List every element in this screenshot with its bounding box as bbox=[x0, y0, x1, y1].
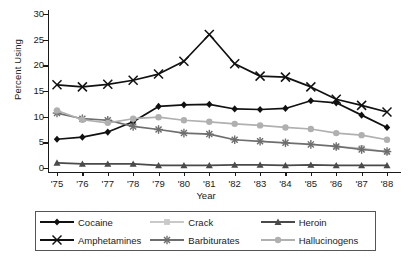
data-point-circle bbox=[274, 237, 280, 243]
data-point-circle bbox=[105, 120, 111, 126]
y-tick-mark bbox=[43, 91, 49, 92]
plot-area: Percent Using 051015202530 '75'76'77'78'… bbox=[0, 0, 412, 196]
y-tick-label: 25 bbox=[22, 35, 44, 45]
legend-swatch-circle-icon bbox=[261, 234, 295, 246]
data-point-circle bbox=[130, 116, 136, 122]
legend-item-amphetamines[interactable]: Amphetamines bbox=[40, 234, 150, 246]
data-point-diamond bbox=[54, 218, 60, 225]
x-tick-mark bbox=[260, 172, 261, 176]
y-tick-label: 15 bbox=[22, 86, 44, 96]
data-point-circle bbox=[206, 119, 212, 125]
data-point-diamond bbox=[206, 101, 212, 108]
data-point-asterisk bbox=[129, 122, 138, 131]
data-point-circle bbox=[282, 124, 288, 130]
x-tick-mark bbox=[285, 172, 286, 176]
legend-swatch-diamond-icon bbox=[40, 216, 74, 228]
chart-legend: CocaineCrackHeroinAmphetaminesBarbiturat… bbox=[35, 211, 376, 251]
y-tick-mark bbox=[43, 40, 49, 41]
x-tick-mark bbox=[209, 172, 210, 176]
y-tick-mark bbox=[43, 65, 49, 66]
x-tick-mark bbox=[235, 172, 236, 176]
legend-label: Hallucinogens bbox=[299, 235, 359, 246]
legend-label: Barbiturates bbox=[188, 235, 239, 246]
x-tick-mark bbox=[133, 172, 134, 176]
series-amphetamines bbox=[53, 30, 392, 117]
data-point-diamond bbox=[308, 97, 314, 104]
data-point-x bbox=[179, 57, 188, 66]
data-point-circle bbox=[54, 107, 60, 113]
y-axis-tick-labels: 051015202530 bbox=[22, 0, 44, 196]
data-point-diamond bbox=[54, 136, 60, 143]
x-tick-mark bbox=[108, 172, 109, 176]
series-heroin bbox=[54, 159, 391, 168]
y-tick-mark bbox=[43, 14, 49, 15]
data-point-triangle bbox=[274, 219, 281, 225]
data-point-circle bbox=[358, 132, 364, 138]
data-point-circle bbox=[181, 117, 187, 123]
data-point-circle bbox=[155, 114, 161, 120]
x-axis-label: Year bbox=[0, 190, 412, 201]
y-tick-label: 30 bbox=[22, 9, 44, 19]
legend-swatch-square-icon bbox=[150, 216, 184, 228]
y-tick-mark bbox=[43, 117, 49, 118]
y-tick-label: 20 bbox=[22, 60, 44, 70]
data-point-asterisk bbox=[230, 135, 239, 144]
data-point-square bbox=[164, 219, 170, 225]
y-tick-mark bbox=[43, 168, 49, 169]
data-point-circle bbox=[333, 130, 339, 136]
data-point-circle bbox=[308, 126, 314, 132]
data-point-asterisk bbox=[281, 139, 290, 148]
x-tick-mark bbox=[336, 172, 337, 176]
data-point-asterisk bbox=[307, 140, 316, 149]
x-tick-mark bbox=[311, 172, 312, 176]
y-tick-label: 0 bbox=[22, 163, 44, 173]
data-point-asterisk bbox=[154, 125, 163, 134]
data-point-asterisk bbox=[205, 130, 214, 139]
data-point-circle bbox=[231, 121, 237, 127]
y-axis-label: Percent Using bbox=[12, 15, 23, 125]
data-point-asterisk bbox=[332, 142, 341, 151]
data-point-circle bbox=[79, 117, 85, 123]
data-point-diamond bbox=[231, 105, 237, 112]
data-point-diamond bbox=[384, 124, 390, 131]
legend-label: Heroin bbox=[299, 217, 327, 228]
legend-item-crack[interactable]: Crack bbox=[150, 216, 260, 228]
data-point-asterisk bbox=[357, 145, 366, 154]
data-point-diamond bbox=[155, 103, 161, 110]
data-point-x bbox=[306, 82, 315, 91]
y-tick-label: 5 bbox=[22, 137, 44, 147]
x-tick-mark bbox=[184, 172, 185, 176]
x-tick-label: '88 bbox=[372, 178, 402, 189]
data-point-asterisk bbox=[163, 236, 172, 245]
y-tick-label: 10 bbox=[22, 112, 44, 122]
data-point-diamond bbox=[181, 101, 187, 108]
legend-item-barbiturates[interactable]: Barbiturates bbox=[150, 234, 260, 246]
data-point-diamond bbox=[358, 112, 364, 119]
data-point-x bbox=[53, 236, 62, 245]
data-point-asterisk bbox=[256, 137, 265, 146]
x-tick-mark bbox=[159, 172, 160, 176]
legend-item-heroin[interactable]: Heroin bbox=[261, 216, 371, 228]
x-tick-mark bbox=[82, 172, 83, 176]
legend-item-hallucinogens[interactable]: Hallucinogens bbox=[261, 234, 371, 246]
line-chart: Percent Using 051015202530 '75'76'77'78'… bbox=[0, 0, 412, 257]
x-tick-mark bbox=[387, 172, 388, 176]
data-point-diamond bbox=[79, 134, 85, 141]
data-point-diamond bbox=[257, 106, 263, 113]
legend-swatch-asterisk-icon bbox=[150, 234, 184, 246]
data-point-x bbox=[205, 30, 214, 39]
series-canvas bbox=[49, 8, 401, 174]
x-tick-mark bbox=[362, 172, 363, 176]
legend-swatch-x-icon bbox=[40, 234, 74, 246]
legend-label: Cocaine bbox=[78, 217, 113, 228]
data-point-circle bbox=[384, 137, 390, 143]
y-tick-mark bbox=[43, 142, 49, 143]
data-point-x bbox=[230, 59, 239, 68]
legend-item-cocaine[interactable]: Cocaine bbox=[40, 216, 150, 228]
data-point-asterisk bbox=[180, 129, 189, 138]
x-tick-mark bbox=[57, 172, 58, 176]
legend-label: Amphetamines bbox=[78, 235, 141, 246]
data-point-diamond bbox=[282, 105, 288, 112]
data-point-diamond bbox=[105, 128, 111, 135]
legend-label: Crack bbox=[188, 217, 213, 228]
